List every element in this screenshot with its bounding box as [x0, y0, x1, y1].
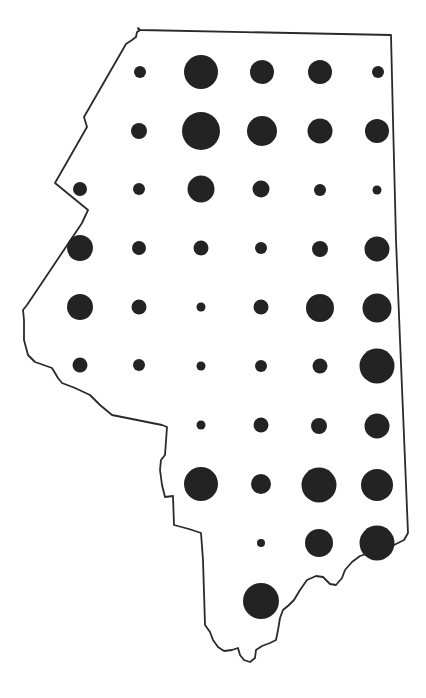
proportional-symbol-circle: [133, 183, 145, 195]
proportional-symbol-circle: [253, 181, 270, 198]
proportional-symbol-circle: [314, 184, 326, 196]
proportional-symbol-circle: [308, 60, 332, 84]
proportional-symbol-circle: [312, 241, 328, 257]
proportional-symbol-circle: [188, 176, 215, 203]
map-canvas: [0, 0, 426, 698]
proportional-symbol-circle: [302, 468, 337, 503]
proportional-symbol-circle: [313, 359, 328, 374]
proportional-symbol-circle: [308, 119, 333, 144]
proportional-symbol-circle: [254, 418, 269, 433]
proportional-symbol-circle: [363, 294, 392, 323]
proportional-symbol-circle: [254, 300, 269, 315]
proportional-symbol-circle: [197, 421, 206, 430]
proportional-symbol-circle: [132, 241, 146, 255]
proportional-symbol-circle: [257, 539, 265, 547]
proportional-symbol-circle: [361, 469, 393, 501]
proportional-symbol-circle: [251, 474, 271, 494]
proportional-symbol-circle: [184, 467, 218, 501]
proportional-symbol-circle: [182, 112, 220, 150]
proportional-symbol-circle: [365, 119, 389, 143]
proportional-symbol-circle: [306, 294, 334, 322]
proportional-symbol-circle: [184, 55, 218, 89]
proportional-symbol-circle: [311, 418, 327, 434]
proportional-symbol-circle: [132, 300, 147, 315]
proportional-symbol-circle: [67, 235, 93, 261]
proportional-symbol-circle: [360, 349, 395, 384]
proportional-symbol-circle: [372, 66, 384, 78]
proportional-symbol-circle: [247, 116, 277, 146]
proportional-symbol-circle: [360, 526, 395, 561]
proportional-symbol-circle: [194, 241, 209, 256]
proportional-symbol-circle: [197, 303, 206, 312]
proportional-symbol-circle: [73, 358, 88, 373]
proportional-symbol-circle: [305, 529, 333, 557]
proportional-symbol-circle: [134, 66, 146, 78]
proportional-symbol-circle: [131, 123, 147, 139]
proportional-symbol-circle: [365, 237, 390, 262]
proportional-symbol-circle: [67, 294, 93, 320]
proportional-symbol-map: [0, 0, 426, 698]
proportional-symbol-circle: [250, 60, 274, 84]
proportional-symbol-circle: [133, 359, 145, 371]
proportional-symbol-circle: [373, 186, 382, 195]
proportional-symbol-circle: [255, 242, 267, 254]
proportional-symbol-circle: [243, 583, 279, 619]
proportional-symbol-circle: [365, 414, 390, 439]
proportional-symbol-circle: [197, 362, 206, 371]
proportional-symbol-circle: [73, 182, 87, 196]
proportional-symbol-circle: [255, 360, 267, 372]
